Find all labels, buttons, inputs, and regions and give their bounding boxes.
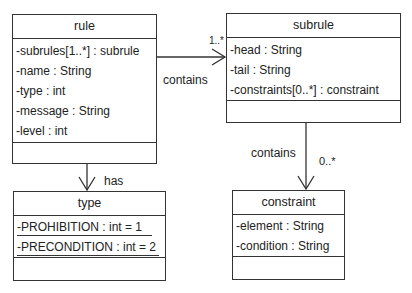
static-attribute: -PROHIBITION : int = 1 bbox=[17, 217, 162, 237]
class-type-attributes: -PROHIBITION : int = 1 -PRECONDITION : i… bbox=[14, 216, 165, 258]
attribute: -tail : String bbox=[230, 60, 397, 80]
attribute: -type : int bbox=[16, 81, 153, 101]
attribute: -message : String bbox=[16, 101, 153, 121]
attribute: -head : String bbox=[230, 40, 397, 60]
class-constraint-title: constraint bbox=[233, 191, 344, 215]
class-constraint-attributes: -element : String -condition : String bbox=[233, 215, 344, 257]
association-label-rule-subrule: contains bbox=[163, 73, 208, 87]
class-subrule-title: subrule bbox=[227, 14, 400, 38]
attribute-text: -PRECONDITION : int = 2 bbox=[17, 240, 159, 256]
class-rule[interactable]: rule -subrules[1..*] : subrule -name : S… bbox=[12, 14, 157, 164]
class-rule-attributes: -subrules[1..*] : subrule -name : String… bbox=[13, 39, 156, 143]
multiplicity-rule-subrule: 1..* bbox=[209, 35, 224, 46]
attribute: -name : String bbox=[16, 61, 153, 81]
class-subrule-attributes: -head : String -tail : String -constrain… bbox=[227, 38, 400, 101]
class-rule-title: rule bbox=[13, 15, 156, 39]
association-label-rule-type: has bbox=[104, 174, 123, 188]
attribute: -element : String bbox=[236, 216, 341, 236]
association-label-subrule-constraint: contains bbox=[251, 146, 296, 160]
attribute: -condition : String bbox=[236, 236, 341, 256]
attribute: -subrules[1..*] : subrule bbox=[16, 41, 153, 61]
class-subrule[interactable]: subrule -head : String -tail : String -c… bbox=[226, 13, 401, 123]
class-constraint[interactable]: constraint -element : String -condition … bbox=[232, 190, 345, 280]
class-type-title: type bbox=[14, 192, 165, 216]
attribute: -constraints[0..*] : constraint bbox=[230, 80, 397, 100]
multiplicity-subrule-constraint: 0..* bbox=[319, 155, 336, 167]
static-attribute: -PRECONDITION : int = 2 bbox=[17, 237, 162, 257]
attribute-text: -PROHIBITION : int = 1 bbox=[17, 220, 152, 236]
attribute: -level : int bbox=[16, 121, 153, 141]
class-type[interactable]: type -PROHIBITION : int = 1 -PRECONDITIO… bbox=[13, 191, 166, 281]
